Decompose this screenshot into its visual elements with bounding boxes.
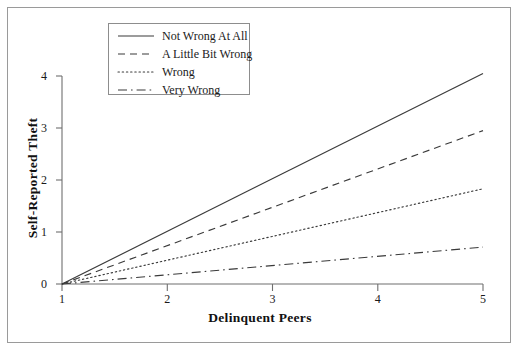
legend-label-a-little-bit-wrong: A Little Bit Wrong [162,48,252,60]
x-axis-ticks [62,284,483,291]
legend-swatch-dashdot-icon [116,83,156,97]
legend-item-wrong: Wrong [109,63,251,81]
series-line-wrong [62,189,483,284]
x-tick-label-3: 3 [265,292,281,307]
x-tick-label-5: 5 [475,292,491,307]
legend-item-not-wrong-at-all: Not Wrong At All [109,27,251,45]
x-tick-label-1: 1 [54,292,70,307]
chart-figure: 0 1 2 3 4 1 2 3 4 5 Delinquent Peers Sel… [0,0,520,354]
y-axis-ticks [56,76,62,284]
plot-area [0,0,520,354]
legend-item-very-wrong: Very Wrong [109,81,251,99]
legend: Not Wrong At All A Little Bit Wrong Wron… [108,23,250,95]
legend-label-wrong: Wrong [162,66,195,78]
y-tick-label-0: 0 [36,277,52,292]
legend-swatch-dashed-icon [116,47,156,61]
x-tick-label-4: 4 [370,292,386,307]
y-axis-title: Self-Reported Theft [25,83,41,273]
legend-swatch-dotted-icon [116,65,156,79]
legend-item-a-little-bit-wrong: A Little Bit Wrong [109,45,251,63]
legend-label-not-wrong-at-all: Not Wrong At All [162,30,248,42]
legend-swatch-solid-icon [116,29,156,43]
y-tick-label-4: 4 [36,69,52,84]
x-tick-label-2: 2 [159,292,175,307]
x-axis-title: Delinquent Peers [0,310,520,326]
series-line-a-little-bit-wrong [62,131,483,284]
legend-label-very-wrong: Very Wrong [162,84,220,96]
